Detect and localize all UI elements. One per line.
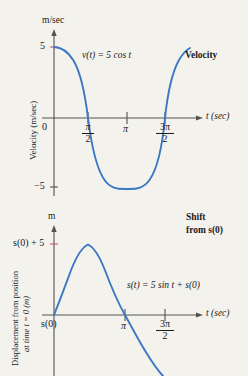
velocity-equation: v(t) = 5 cos t	[82, 51, 131, 61]
displacement-xtick-3pi-over-2-numerator: 3π	[156, 319, 174, 329]
figure-container: m/sec 5 −5 0 π 2 π 3π 2 t (sec) v(t) = 5…	[0, 0, 248, 376]
displacement-curve	[54, 245, 163, 376]
velocity-xtick-3pi-over-2-denominator: 2	[156, 134, 174, 144]
displacement-chart-axes	[42, 225, 203, 376]
velocity-yaxis-caption: Velocity (m/sec)	[28, 101, 38, 160]
displacement-ytick-label-s0-plus-5: s(0) + 5	[13, 238, 44, 248]
displacement-yaxis-caption-line1: Displacement from position	[11, 271, 21, 366]
displacement-heading-line2: from s(0)	[186, 226, 223, 236]
velocity-x-axis-arrowhead	[196, 115, 203, 120]
velocity-xaxis-label: t (sec)	[206, 112, 229, 122]
displacement-yaxis-caption-line2: at time t = 0 (m)	[22, 296, 32, 352]
displacement-heading-line1: Shift	[186, 213, 206, 223]
velocity-ytick-label-5: 5	[40, 41, 45, 51]
velocity-ytick-label-neg5: −5	[34, 181, 45, 191]
velocity-xtick-pi-over-2-numerator: π	[82, 122, 94, 132]
velocity-xtick-3pi-over-2-numerator: 3π	[156, 122, 174, 132]
displacement-xtick-label-pi: π	[121, 321, 126, 331]
velocity-xtick-label-pi: π	[123, 124, 128, 134]
displacement-xtick-3pi-over-2-denominator: 2	[156, 331, 174, 341]
velocity-xtick-label-pi-over-2: π 2	[82, 122, 94, 144]
velocity-xtick-label-3pi-over-2: 3π 2	[156, 122, 174, 144]
displacement-yaxis-unit: m	[48, 212, 55, 222]
velocity-xtick-pi-over-2-denominator: 2	[82, 134, 94, 144]
displacement-y-axis-arrowhead	[51, 225, 56, 232]
velocity-heading: Velocity	[185, 51, 217, 61]
displacement-x-axis-arrowhead	[196, 312, 203, 317]
velocity-yaxis-unit: m/sec	[42, 16, 64, 26]
displacement-origin-label: s(0)	[41, 319, 57, 329]
displacement-xaxis-label: t (sec)	[206, 309, 229, 319]
velocity-y-axis-arrowhead	[51, 29, 56, 36]
displacement-xtick-label-3pi-over-2: 3π 2	[156, 319, 174, 341]
displacement-equation: s(t) = 5 sin t + s(0)	[127, 281, 200, 291]
velocity-origin-label: 0	[42, 122, 47, 132]
